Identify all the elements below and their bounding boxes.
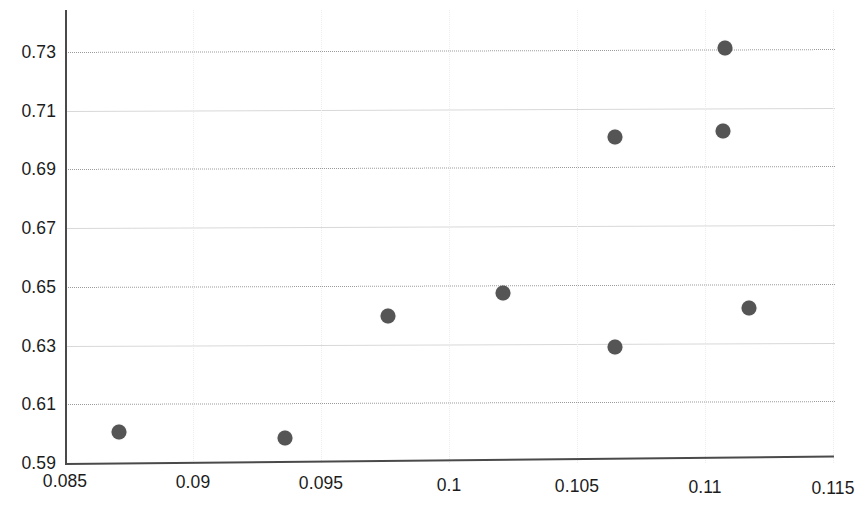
y-axis-line [65, 10, 67, 463]
x-tick-label-0.1: 0.1 [437, 475, 462, 496]
data-point [380, 308, 395, 323]
x-tick-label-0.115: 0.115 [812, 478, 855, 499]
y-tick-label-0.73: 0.73 [22, 42, 56, 63]
gridline-x-0.115 [833, 10, 834, 463]
y-tick-label-0.63: 0.63 [22, 335, 56, 356]
scatter-chart: 0.590.610.630.650.670.690.710.73 0.0850.… [0, 0, 866, 511]
x-tick-label-0.11: 0.11 [688, 477, 721, 498]
gridline-x-0.11 [705, 10, 706, 463]
data-point [111, 424, 126, 439]
y-tick-label-0.67: 0.67 [22, 218, 56, 239]
x-tick-label-0.09: 0.09 [176, 472, 210, 493]
data-point [741, 300, 756, 315]
gridline-x-0.09 [193, 10, 194, 463]
data-point [608, 340, 623, 355]
y-tick-label-0.71: 0.71 [22, 100, 56, 121]
data-point [608, 130, 623, 145]
data-point [718, 41, 733, 56]
y-tick-label-0.69: 0.69 [22, 159, 56, 180]
plot-area [65, 10, 833, 463]
x-tick-label-0.105: 0.105 [555, 476, 599, 497]
data-point [715, 123, 730, 138]
data-point [278, 431, 293, 446]
gridline-x-0.105 [577, 10, 578, 463]
data-point [495, 286, 510, 301]
gridline-x-0.095 [321, 10, 322, 463]
y-tick-label-0.65: 0.65 [22, 276, 56, 297]
gridline-x-0.1 [449, 10, 450, 463]
x-tick-label-0.085: 0.085 [43, 471, 87, 492]
y-tick-label-0.61: 0.61 [22, 394, 56, 415]
x-tick-label-0.095: 0.095 [299, 473, 343, 494]
